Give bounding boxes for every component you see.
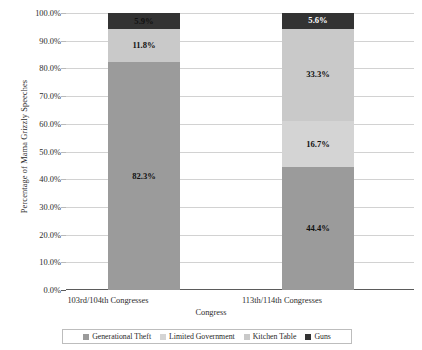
bar-segment[interactable]: 5.6% xyxy=(282,13,354,29)
legend-swatch-icon xyxy=(83,334,89,340)
legend-item[interactable]: Limited Government xyxy=(160,332,235,341)
x-axis-title: Congress xyxy=(0,308,422,317)
y-axis-tick-label: 80.0% xyxy=(0,64,61,73)
bar-0[interactable]: 5.9%11.8%82.3% xyxy=(108,13,180,290)
bar-segment-label: 5.9% xyxy=(134,17,153,26)
stacked-bar-chart: Percentage of Mama Grizzly Speeches 0.0%… xyxy=(0,0,422,350)
x-axis-tick-label-0: 103rd/104th Congresses xyxy=(33,296,183,305)
x-axis-tick-label-1: 113th/114th Congresses xyxy=(207,296,357,305)
y-axis-tick-label: 30.0% xyxy=(0,202,61,211)
bar-segment-label: 11.8% xyxy=(132,41,155,50)
bar-segment[interactable]: 44.4% xyxy=(282,167,354,290)
y-axis-tick-label: 50.0% xyxy=(0,147,61,156)
y-axis-tick-label: 40.0% xyxy=(0,175,61,184)
chart-legend: Generational TheftLimited GovernmentKitc… xyxy=(62,329,352,344)
bar-segment[interactable]: 5.9% xyxy=(108,13,180,29)
legend-label: Generational Theft xyxy=(92,332,151,341)
y-axis-tick-label: 70.0% xyxy=(0,92,61,101)
legend-label: Kitchen Table xyxy=(253,332,297,341)
y-axis-tick-mark xyxy=(61,290,66,291)
bar-segment[interactable]: 82.3% xyxy=(108,62,180,290)
legend-item[interactable]: Guns xyxy=(305,332,330,341)
bar-segment-label: 33.3% xyxy=(306,70,330,79)
bar-segment-label: 5.6% xyxy=(308,16,327,25)
y-axis-tick-label: 60.0% xyxy=(0,119,61,128)
bar-segment-label: 82.3% xyxy=(132,172,156,181)
legend-item[interactable]: Kitchen Table xyxy=(244,332,297,341)
y-axis-tick-label: 20.0% xyxy=(0,230,61,239)
bar-1[interactable]: 5.6%33.3%16.7%44.4% xyxy=(282,13,354,290)
legend-label: Guns xyxy=(314,332,330,341)
y-axis-tick-label: 90.0% xyxy=(0,36,61,45)
bar-segment[interactable]: 11.8% xyxy=(108,29,180,62)
legend-item[interactable]: Generational Theft xyxy=(83,332,151,341)
plot-area: 5.9%11.8%82.3%5.6%33.3%16.7%44.4% xyxy=(66,13,414,290)
y-axis-tick-label: 100.0% xyxy=(0,9,61,18)
bar-segment[interactable]: 16.7% xyxy=(282,121,354,167)
legend-label: Limited Government xyxy=(169,332,235,341)
bar-segment[interactable]: 33.3% xyxy=(282,29,354,121)
y-axis-tick-label: 0.0% xyxy=(0,286,61,295)
legend-swatch-icon xyxy=(305,334,311,340)
bar-segment-label: 44.4% xyxy=(306,224,330,233)
legend-swatch-icon xyxy=(244,334,250,340)
bar-segment-label: 16.7% xyxy=(306,140,330,149)
legend-swatch-icon xyxy=(160,334,166,340)
y-axis-tick-label: 10.0% xyxy=(0,258,61,267)
